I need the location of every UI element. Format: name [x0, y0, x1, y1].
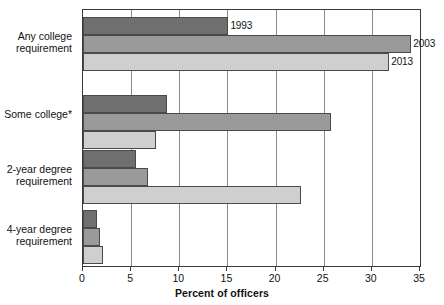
x-tick-25	[323, 266, 324, 271]
bar-2013-1[interactable]	[83, 53, 389, 71]
bar-1993-2[interactable]	[83, 95, 167, 113]
category-label-line: requirement	[0, 175, 72, 187]
category-label-line: requirement	[0, 235, 72, 247]
x-axis-title: Percent of officers	[0, 287, 444, 299]
category-label-some-college: Some college*	[0, 108, 72, 120]
data-label-1993: 1993	[230, 21, 252, 31]
data-label-2003: 2003	[413, 39, 435, 49]
category-label-line: Any college	[0, 30, 72, 42]
bar-2013-2[interactable]	[83, 131, 156, 149]
plot-area	[82, 9, 421, 267]
bar-2013-3[interactable]	[83, 186, 301, 204]
category-label-2-year-degree: 2-year degree requirement	[0, 163, 72, 187]
x-tick-15	[226, 266, 227, 271]
bar-1993-4[interactable]	[83, 210, 97, 228]
x-tick-label-0: 0	[67, 272, 97, 285]
bar-chart-figure: Any college requirement Some college* 2-…	[0, 0, 444, 305]
category-label-4-year-degree: 4-year degree requirement	[0, 223, 72, 247]
category-label-line: Some college*	[0, 108, 72, 120]
bar-2003-1[interactable]	[83, 35, 411, 53]
bar-2003-3[interactable]	[83, 168, 148, 186]
bar-1993-3[interactable]	[83, 150, 136, 168]
x-tick-label-25: 25	[308, 272, 338, 285]
x-tick-10	[178, 266, 179, 271]
x-tick-label-30: 30	[356, 272, 386, 285]
category-label-line: requirement	[0, 42, 72, 54]
bar-2013-4[interactable]	[83, 246, 103, 264]
category-label-any-college: Any college requirement	[0, 30, 72, 54]
x-tick-0	[82, 266, 83, 271]
category-label-line: 2-year degree	[0, 163, 72, 175]
x-tick-5	[130, 266, 131, 271]
bar-1993-1[interactable]	[83, 17, 228, 35]
x-tick-30	[371, 266, 372, 271]
x-tick-label-15: 15	[211, 272, 241, 285]
x-tick-35	[419, 266, 420, 271]
bar-2003-2[interactable]	[83, 113, 331, 131]
category-label-line: 4-year degree	[0, 223, 72, 235]
x-tick-label-20: 20	[260, 272, 290, 285]
x-tick-20	[275, 266, 276, 271]
x-tick-label-5: 5	[115, 272, 145, 285]
x-tick-label-35: 35	[404, 272, 434, 285]
x-tick-label-10: 10	[163, 272, 193, 285]
data-label-2013: 2013	[391, 57, 413, 67]
bar-2003-4[interactable]	[83, 228, 100, 246]
